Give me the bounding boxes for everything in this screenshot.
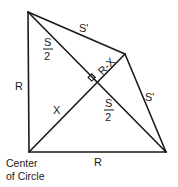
label-x: X xyxy=(53,104,61,116)
label-s-half-top-num: S xyxy=(44,36,51,48)
caption-line-2: of Circle xyxy=(6,170,45,183)
caption-line-1: Center xyxy=(6,157,45,170)
label-r-left: R xyxy=(15,80,23,92)
label-s-prime-right: S' xyxy=(145,91,154,103)
label-r-bottom: R xyxy=(94,156,102,168)
top-edge-s-prime xyxy=(28,12,125,54)
label-s-half-bottom-num: S xyxy=(105,97,112,109)
label-s-half-top-den: 2 xyxy=(44,50,50,62)
center-of-circle-caption: Center of Circle xyxy=(6,157,45,183)
geometry-diagram: S' S' S 2 S 2 R-X X R R Center of Circle xyxy=(0,0,178,187)
label-r-minus-x: R-X xyxy=(95,55,117,77)
label-s-prime-top: S' xyxy=(79,22,88,34)
label-s-half-bottom-den: 2 xyxy=(105,111,111,123)
right-edge-s-prime xyxy=(125,54,166,152)
left-edge-r xyxy=(28,12,29,152)
